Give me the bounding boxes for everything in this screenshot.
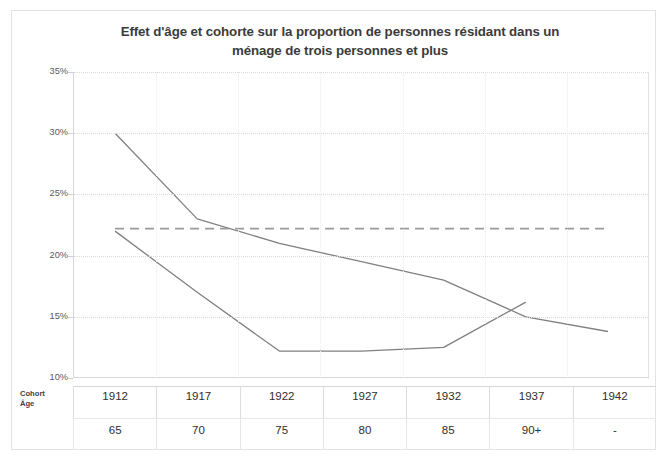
table-row-age: 65 70 75 80 85 90+ -: [11, 418, 656, 450]
table-cell-cohort: 1932: [406, 386, 489, 418]
data-series-line: [115, 133, 608, 331]
table-cell-age: -: [573, 418, 656, 450]
category-separator: [156, 72, 157, 378]
table-cell-age: 75: [240, 418, 323, 450]
cohort-age-table: Cohort Âge 1912 1917 1922 1927 1932 1937…: [11, 386, 656, 450]
category-separator: [403, 72, 404, 378]
category-separator: [238, 72, 239, 378]
category-separator: [567, 72, 568, 378]
gridline: [74, 194, 648, 195]
table-cell-age: 85: [406, 418, 489, 450]
table-row-header-spacer: [11, 418, 73, 450]
y-axis-tick-label: 15%: [30, 311, 68, 321]
gridline: [74, 72, 648, 73]
table-cell-cohort: 1927: [323, 386, 406, 418]
y-axis-tick-mark: [68, 378, 73, 379]
gridline: [74, 256, 648, 257]
gridline: [74, 317, 648, 318]
table-cell-cohort: 1912: [73, 386, 156, 418]
gridline: [74, 133, 648, 134]
y-axis-tick-label: 35%: [30, 66, 68, 76]
table-cell-cohort: 1917: [156, 386, 239, 418]
plot-area: [73, 72, 648, 378]
age-row-label: Âge: [20, 399, 73, 409]
chart-root: Effet d'âge et cohorte sur la proportion…: [0, 0, 667, 460]
y-axis-tick-label: 20%: [30, 250, 68, 260]
table-cell-cohort: 1922: [240, 386, 323, 418]
series-lines: [74, 72, 649, 378]
category-separator: [485, 72, 486, 378]
table-cell-age: 65: [73, 418, 156, 450]
table-row-cohort: Cohort Âge 1912 1917 1922 1927 1932 1937…: [11, 386, 656, 418]
y-axis-tick-label: 30%: [30, 127, 68, 137]
y-axis-tick-label: 25%: [30, 188, 68, 198]
table-cell-age: 70: [156, 418, 239, 450]
table-cell-age: 90+: [489, 418, 572, 450]
category-separator: [320, 72, 321, 378]
table-cell-age: 80: [323, 418, 406, 450]
y-axis-tick-label: 10%: [30, 372, 68, 382]
cohort-row-label: Cohort: [20, 389, 73, 399]
table-cell-cohort: 1942: [573, 386, 656, 418]
table-cell-cohort: 1937: [489, 386, 572, 418]
table-row-header: Cohort Âge: [11, 386, 73, 418]
